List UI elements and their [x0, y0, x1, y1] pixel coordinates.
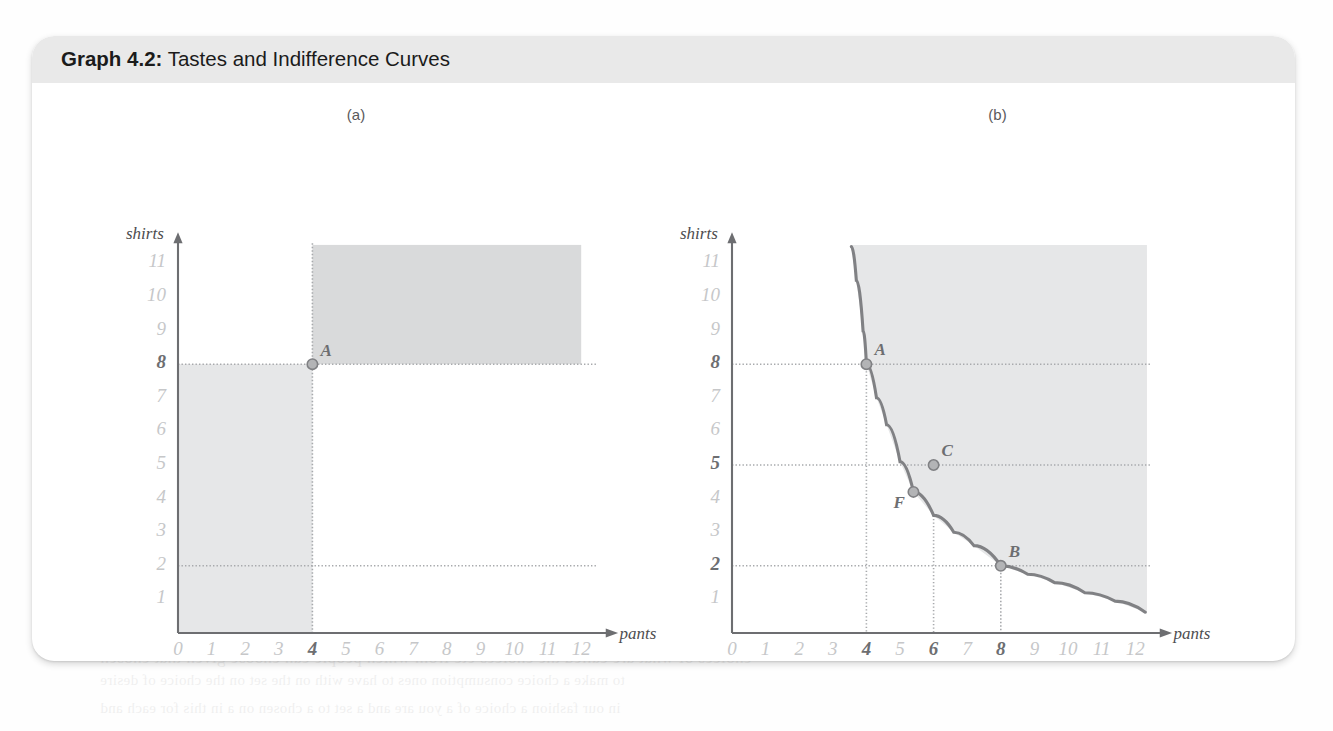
point-label-A: A [874, 340, 885, 360]
data-point-F [908, 487, 918, 497]
x-tick-label-5: 5 [332, 638, 360, 660]
figure-number: Graph 4.2: [61, 47, 162, 70]
shaded-region-preferred-to-A [851, 245, 1147, 615]
y-tick-label-11: 11 [136, 250, 166, 272]
x-tick-label-10: 10 [1054, 638, 1082, 660]
x-tick-label-11: 11 [534, 638, 562, 660]
x-tick-label-11: 11 [1088, 638, 1116, 660]
x-tick-label-10: 10 [500, 638, 528, 660]
x-tick-label-4: 4 [298, 638, 326, 660]
plot-area-a: shirtspants01234567891011121234567891011… [32, 83, 664, 661]
x-tick-label-2: 2 [231, 638, 259, 660]
x-axis-label: pants [619, 624, 656, 644]
y-tick-label-4: 4 [690, 486, 720, 508]
point-label-B: B [1009, 542, 1020, 562]
y-tick-label-2: 2 [136, 553, 166, 575]
point-label-A: A [320, 341, 331, 361]
x-axis-label: pants [1173, 624, 1210, 644]
y-axis-arrowhead [173, 232, 182, 243]
x-axis-arrowhead [606, 628, 618, 637]
figure-title: Graph 4.2: Tastes and Indifference Curve… [61, 47, 450, 71]
y-tick-label-8: 8 [690, 351, 720, 373]
x-tick-label-2: 2 [785, 638, 813, 660]
x-tick-label-9: 9 [466, 638, 494, 660]
y-tick-label-9: 9 [136, 318, 166, 340]
plot-area-b: shirtspants01234567891011121234567891011… [664, 83, 1295, 661]
y-tick-label-3: 3 [690, 519, 720, 541]
y-axis-arrowhead [727, 232, 736, 243]
point-label-F: F [893, 493, 904, 513]
data-point-A [861, 359, 871, 369]
x-tick-label-3: 3 [265, 638, 293, 660]
y-tick-label-7: 7 [690, 385, 720, 407]
y-tick-label-5: 5 [690, 452, 720, 474]
y-tick-label-2: 2 [690, 553, 720, 575]
data-point-A [307, 359, 317, 369]
shaded-region-worse-than-A [178, 364, 312, 633]
point-label-C: C [942, 441, 953, 461]
y-tick-label-8: 8 [136, 351, 166, 373]
x-tick-label-3: 3 [819, 638, 847, 660]
x-tick-label-7: 7 [399, 638, 427, 660]
y-tick-label-9: 9 [690, 318, 720, 340]
chart-svg-a [32, 83, 664, 661]
x-tick-label-12: 12 [1121, 638, 1149, 660]
x-tick-label-12: 12 [567, 638, 595, 660]
y-tick-label-1: 1 [136, 586, 166, 608]
data-point-C [928, 460, 938, 470]
x-tick-label-1: 1 [752, 638, 780, 660]
x-axis-arrowhead [1160, 628, 1172, 637]
y-axis-label: shirts [126, 224, 164, 244]
y-tick-label-4: 4 [136, 486, 166, 508]
y-tick-label-7: 7 [136, 385, 166, 407]
x-tick-label-8: 8 [987, 638, 1015, 660]
x-tick-label-6: 6 [920, 638, 948, 660]
x-tick-label-6: 6 [366, 638, 394, 660]
bleed-text-line: to make a choice consumption ones to hav… [100, 672, 625, 689]
bleed-text-line: in our fashion a choice of a you are and… [100, 700, 621, 717]
figure-title-text: Tastes and Indifference Curves [168, 47, 450, 70]
panel-a: (a) shirtspants0123456789101112123456789… [32, 83, 664, 661]
x-tick-label-5: 5 [886, 638, 914, 660]
y-tick-label-5: 5 [136, 452, 166, 474]
data-point-B [996, 561, 1006, 571]
y-tick-label-6: 6 [690, 418, 720, 440]
shaded-region-better-than-A [312, 245, 581, 364]
x-tick-label-1: 1 [198, 638, 226, 660]
y-tick-label-3: 3 [136, 519, 166, 541]
panel-b: (b) shirtspants0123456789101112123456789… [664, 83, 1295, 661]
y-tick-label-10: 10 [690, 284, 720, 306]
y-tick-label-1: 1 [690, 586, 720, 608]
y-tick-label-10: 10 [136, 284, 166, 306]
x-tick-label-4: 4 [852, 638, 880, 660]
figure-card: Graph 4.2: Tastes and Indifference Curve… [32, 36, 1295, 661]
x-tick-label-0: 0 [718, 638, 746, 660]
x-tick-label-9: 9 [1020, 638, 1048, 660]
y-axis-label: shirts [680, 224, 718, 244]
y-tick-label-11: 11 [690, 250, 720, 272]
figure-page: that I choose 8 shirts to pants and shir… [0, 0, 1333, 731]
chart-svg-b [664, 83, 1295, 661]
y-tick-label-6: 6 [136, 418, 166, 440]
x-tick-label-7: 7 [953, 638, 981, 660]
x-tick-label-0: 0 [164, 638, 192, 660]
x-tick-label-8: 8 [433, 638, 461, 660]
